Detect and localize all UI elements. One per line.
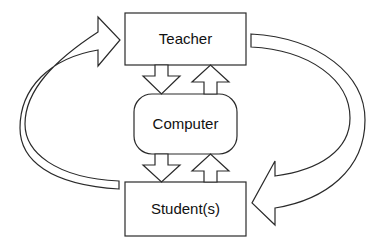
arrow-computer-to-student bbox=[143, 154, 180, 182]
arrow-student-to-computer bbox=[192, 154, 229, 182]
computer-label: Computer bbox=[153, 115, 219, 132]
arrow-computer-to-teacher bbox=[192, 65, 229, 94]
diagram-canvas: Teacher Computer Student(s) bbox=[0, 0, 380, 249]
student-label: Student(s) bbox=[151, 200, 220, 217]
arrow-teacher-to-computer bbox=[143, 65, 180, 94]
curved-arrow-student-to-teacher bbox=[20, 17, 120, 189]
curved-arrow-teacher-to-student bbox=[251, 34, 365, 225]
teacher-label: Teacher bbox=[159, 30, 212, 47]
